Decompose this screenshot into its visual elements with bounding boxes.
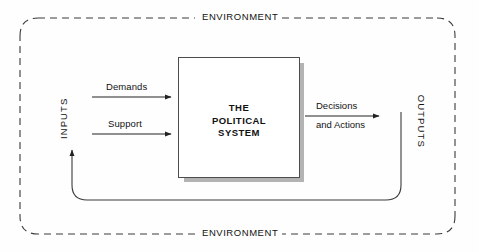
political-system-box: THE POLITICAL SYSTEM: [178, 57, 300, 178]
political-system-title-line-3: SYSTEM: [179, 127, 299, 140]
outputs-axis-label: OUTPUTS: [415, 95, 426, 148]
decisions-line: Decisions: [316, 101, 365, 112]
environment-top-label: ENVIRONMENT: [198, 12, 282, 23]
political-system-title-line-2: POLITICAL: [179, 115, 299, 128]
environment-bottom-label: ENVIRONMENT: [198, 228, 282, 239]
political-system-diagram: ENVIRONMENT ENVIRONMENT INPUTS OUTPUTS D…: [0, 0, 479, 252]
inputs-axis-label: INPUTS: [59, 98, 70, 139]
support-label: Support: [108, 119, 142, 130]
political-system-title: THE POLITICAL SYSTEM: [179, 102, 299, 140]
and-actions-line: and Actions: [316, 120, 365, 131]
demands-label: Demands: [106, 82, 147, 93]
political-system-title-line-1: THE: [179, 102, 299, 115]
decisions-and-actions-label: Decisions and Actions: [316, 101, 365, 130]
